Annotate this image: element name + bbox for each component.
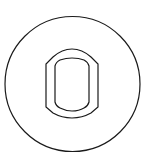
outer-ring-outline xyxy=(46,49,98,118)
line-drawing: Line drawing: circle enclosing a double-… xyxy=(0,0,150,165)
inner-ring-outline xyxy=(55,58,89,111)
ring-in-circle-icon xyxy=(0,0,150,165)
outer-circle xyxy=(5,17,140,152)
